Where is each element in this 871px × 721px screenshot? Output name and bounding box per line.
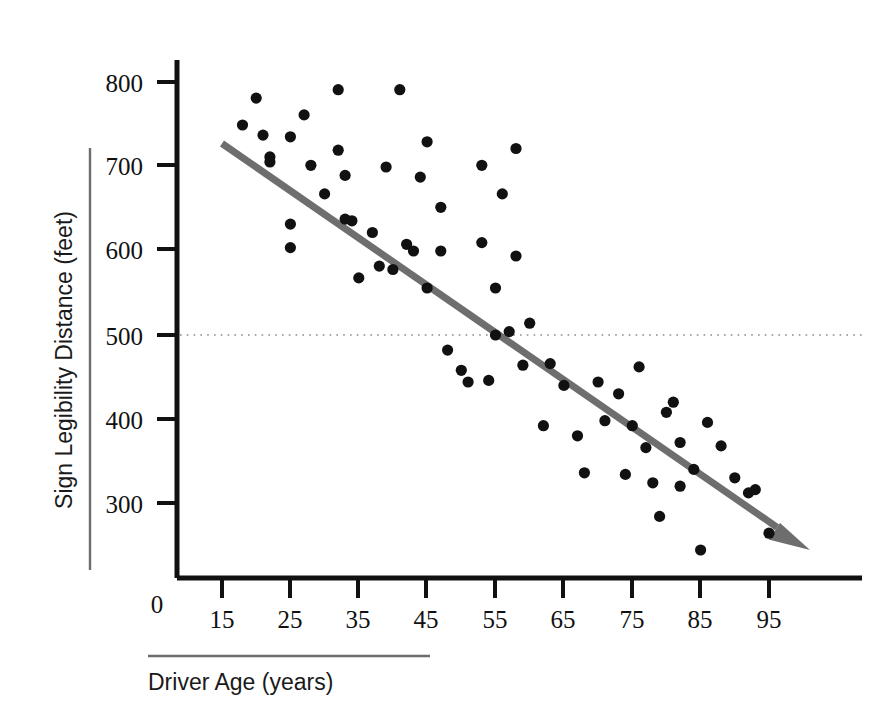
data-point	[305, 160, 316, 171]
data-point	[237, 119, 248, 130]
data-point	[647, 477, 658, 488]
data-point	[285, 242, 296, 253]
y-tick-label-700: 700	[106, 153, 144, 180]
x-axis-title: Driver Age (years)	[148, 669, 333, 695]
data-point	[702, 417, 713, 428]
data-point	[367, 227, 378, 238]
data-point	[483, 375, 494, 386]
data-point	[476, 160, 487, 171]
y-tick-label-800: 800	[106, 70, 144, 97]
data-point	[668, 397, 679, 408]
data-point	[435, 202, 446, 213]
data-point	[675, 481, 686, 492]
data-point	[394, 84, 405, 95]
data-point	[729, 472, 740, 483]
data-point	[490, 282, 501, 293]
data-point	[415, 172, 426, 183]
data-point	[264, 156, 275, 167]
data-point	[340, 170, 351, 181]
x-tick-label-45: 45	[414, 606, 439, 633]
y-axis-title: Sign Legibility Distance (feet)	[51, 211, 77, 509]
data-point	[387, 264, 398, 275]
data-point	[422, 136, 433, 147]
data-point	[408, 245, 419, 256]
data-point	[640, 442, 651, 453]
y-tick-label-600: 600	[106, 237, 144, 264]
data-point	[661, 407, 672, 418]
data-point	[463, 376, 474, 387]
scatter-plot-figure: 800 700 600 500 400 300 0 15 25 35 45 55…	[0, 0, 871, 721]
data-point	[572, 430, 583, 441]
x-tick-label-85: 85	[688, 606, 713, 633]
data-point	[654, 511, 665, 522]
data-point	[251, 93, 262, 104]
data-point	[524, 318, 535, 329]
x-tick-label-35: 35	[346, 606, 371, 633]
x-tick-label-15: 15	[210, 606, 235, 633]
data-point	[634, 361, 645, 372]
data-point	[620, 469, 631, 480]
data-point	[579, 467, 590, 478]
data-point	[490, 329, 501, 340]
data-point	[422, 282, 433, 293]
data-point	[381, 161, 392, 172]
x-tick-label-75: 75	[620, 606, 645, 633]
data-point	[374, 261, 385, 272]
data-point	[510, 250, 521, 261]
data-point	[545, 358, 556, 369]
data-point	[257, 130, 268, 141]
data-point	[599, 415, 610, 426]
data-point	[476, 237, 487, 248]
data-point	[716, 440, 727, 451]
data-point	[504, 326, 515, 337]
x-tick-label-55: 55	[483, 606, 508, 633]
y-axis-ticks	[157, 82, 177, 503]
data-point	[688, 464, 699, 475]
data-point	[285, 131, 296, 142]
data-point	[510, 143, 521, 154]
data-point	[517, 360, 528, 371]
data-point	[346, 215, 357, 226]
trend-line-group	[222, 144, 810, 551]
data-point	[538, 420, 549, 431]
y-tick-label-400: 400	[106, 407, 144, 434]
data-point	[558, 380, 569, 391]
x-tick-label-65: 65	[551, 606, 576, 633]
x-tick-label-95: 95	[757, 606, 782, 633]
data-point	[675, 437, 686, 448]
x-tick-label-25: 25	[278, 606, 303, 633]
scatter-points-group	[237, 84, 775, 556]
data-point	[319, 188, 330, 199]
x-axis-ticks	[222, 578, 769, 598]
data-point	[695, 544, 706, 555]
data-point	[750, 484, 761, 495]
data-point	[299, 109, 310, 120]
data-point	[353, 272, 364, 283]
data-point	[333, 84, 344, 95]
plot-canvas: 800 700 600 500 400 300 0 15 25 35 45 55…	[0, 0, 871, 721]
data-point	[497, 188, 508, 199]
data-point	[763, 528, 774, 539]
data-point	[442, 345, 453, 356]
data-point	[285, 219, 296, 230]
origin-zero-label: 0	[151, 591, 164, 618]
data-point	[435, 245, 446, 256]
data-point	[613, 388, 624, 399]
data-point	[627, 420, 638, 431]
data-point	[593, 376, 604, 387]
data-point	[456, 365, 467, 376]
y-tick-label-300: 300	[106, 491, 144, 518]
data-point	[333, 145, 344, 156]
y-tick-label-500: 500	[106, 323, 144, 350]
